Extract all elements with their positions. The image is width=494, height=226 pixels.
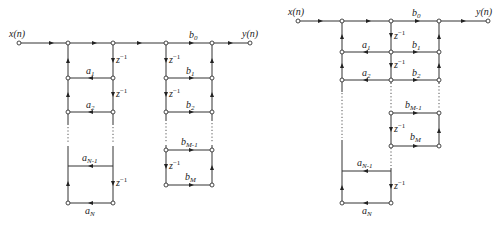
direct-form-2-diagram: x(n) y(n) a1 a2 aN-1 aN b0 b1 b2 bM-1 bM… [287, 6, 493, 218]
signal-flow-diagrams: x(n) y(n) a1 a2 aN-1 aN z−1 z−1 z−1 b0 b… [0, 0, 494, 226]
coef-aN: aN [362, 205, 372, 218]
delay-label: z−1 [393, 58, 406, 70]
output-label: y(n) [475, 6, 493, 18]
output-label: y(n) [241, 28, 259, 40]
input-label: x(n) [287, 6, 305, 18]
coef-b0: b0 [189, 29, 198, 42]
delay-label: z−1 [115, 176, 128, 188]
input-node [17, 41, 21, 45]
delay-label: z−1 [115, 87, 128, 99]
coef-aN: aN [85, 205, 95, 218]
coef-a1: a1 [86, 65, 95, 78]
coef-a1: a1 [362, 39, 371, 52]
direct-form-1-diagram: x(n) y(n) a1 a2 aN-1 aN z−1 z−1 z−1 b0 b… [8, 28, 259, 218]
coef-aN-1: aN-1 [82, 152, 98, 165]
input-label: x(n) [8, 28, 26, 40]
coef-bM-1: bM-1 [181, 136, 198, 149]
coef-b1: b1 [412, 39, 421, 52]
delay-label: z−1 [115, 53, 128, 65]
coef-b2: b2 [412, 67, 421, 80]
coef-aN-1: aN-1 [357, 157, 373, 170]
input-node [296, 19, 300, 23]
delay-label: z−1 [168, 53, 181, 65]
coef-bM-1: bM-1 [405, 99, 422, 112]
output-node [486, 19, 490, 23]
coef-b1: b1 [186, 65, 195, 78]
coef-b0: b0 [412, 7, 421, 20]
delay-label: z−1 [393, 179, 406, 191]
delay-label: z−1 [393, 29, 406, 41]
coef-bM: bM [410, 131, 422, 144]
coef-bM: bM [185, 171, 197, 184]
delay-label: z−1 [168, 159, 181, 171]
coef-a2: a2 [362, 67, 371, 80]
delay-label: z−1 [393, 122, 406, 134]
delay-label: z−1 [168, 87, 181, 99]
coef-b2: b2 [186, 99, 195, 112]
coef-a2: a2 [86, 99, 95, 112]
output-node [248, 41, 252, 45]
